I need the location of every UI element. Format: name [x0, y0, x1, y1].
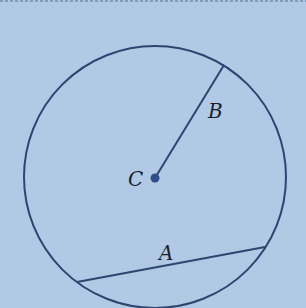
center-point: [151, 174, 160, 183]
circle-diagram: C B A: [0, 0, 306, 308]
diagram-canvas: C B A: [0, 0, 306, 308]
label-c: C: [128, 167, 143, 191]
label-b: B: [207, 99, 223, 123]
label-a: A: [157, 241, 173, 265]
